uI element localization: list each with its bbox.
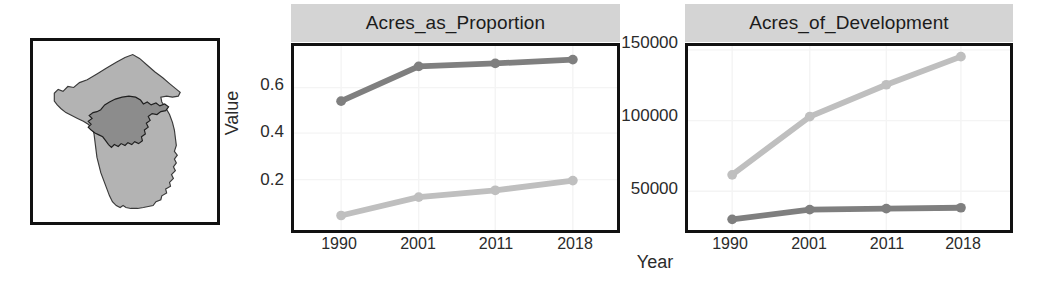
x-tick-label-1-3: 2018 [557, 235, 593, 253]
x-tick-label-2-2: 2011 [870, 235, 904, 253]
y-tick-label-2-2: 50000 [596, 179, 678, 199]
x-tick-label-2-1: 2001 [791, 235, 827, 253]
x-tick-label-2-0: 1990 [712, 235, 748, 253]
series-dark-2 [727, 203, 966, 224]
x-tick-label-1-1: 2001 [400, 235, 436, 253]
facet-panel-acres-of-development: Acres_of_Development [685, 4, 1013, 194]
facet-strip-label-1: Acres_as_Proportion [291, 4, 620, 42]
facet-panel-acres-as-proportion: Acres_as_Proportion [291, 4, 620, 194]
facet-strip-label-2: Acres_of_Development [685, 4, 1013, 42]
county-map-panel [30, 38, 220, 225]
plot-area-2 [685, 43, 1013, 233]
series-light-2 [727, 52, 966, 180]
facet-title-2: Acres_of_Development [749, 12, 949, 34]
series-light-1 [336, 176, 578, 221]
y-tick-label-1-2: 0.2 [238, 170, 284, 190]
series-dark-1 [336, 55, 578, 106]
y-tick-label-2-0: 150000 [596, 33, 678, 53]
x-tick-label-1-0: 1990 [321, 235, 357, 253]
line-chart-acres-as-proportion [294, 46, 617, 230]
line-chart-acres-of-development [688, 46, 1010, 230]
county-map-image [33, 41, 217, 222]
y-tick-label-2-1: 100000 [596, 106, 678, 126]
y-tick-label-1-0: 0.6 [238, 75, 284, 95]
x-tick-label-2-3: 2018 [945, 235, 981, 253]
plot-area-1 [291, 43, 620, 233]
facet-title-1: Acres_as_Proportion [366, 12, 545, 34]
x-axis-title: Year [637, 252, 673, 273]
x-tick-label-1-2: 2011 [479, 235, 513, 253]
y-tick-label-1-1: 0.4 [238, 122, 284, 142]
grid-lines-2 [688, 46, 1010, 230]
grid-lines-1 [294, 46, 617, 230]
